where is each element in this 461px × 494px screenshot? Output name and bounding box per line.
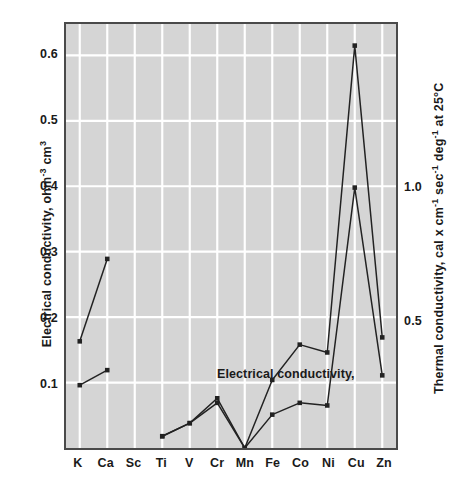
y-left-title-mid: cm bbox=[40, 146, 54, 168]
x-axis-tick-label: Ca bbox=[98, 456, 114, 470]
y-right-title-prefix: Thermal conductivity, cal x cm bbox=[432, 207, 446, 394]
y-left-title-sup2: 3 bbox=[38, 141, 48, 146]
annotation-thermal-conductivity: Thermal conductivity bbox=[347, 447, 398, 450]
x-axis-tick-label: Ni bbox=[322, 456, 335, 470]
y-axis-right-title: Thermal conductivity, cal x cm-1 sec-1 d… bbox=[430, 94, 446, 394]
annotation-electrical-conductivity: Electrical conductivity, bbox=[217, 367, 355, 381]
y-axis-right-tick-label: 0.5 bbox=[404, 314, 422, 328]
x-axis-tick-label: V bbox=[185, 456, 194, 470]
y-axis-right-tick-label: 1.0 bbox=[404, 180, 422, 194]
y-right-title-suffix: at 25°C bbox=[432, 83, 446, 131]
series-lines bbox=[66, 24, 396, 448]
chart-figure: Electrical conductivity, Thermal conduct… bbox=[0, 0, 461, 494]
x-axis-tick-label: K bbox=[73, 456, 82, 470]
y-axis-left-tick-label: 0.1 bbox=[40, 377, 58, 391]
y-right-title-sup2: -1 bbox=[430, 165, 440, 173]
x-axis-tick-label: Cu bbox=[348, 456, 365, 470]
y-right-title-mid2: deg bbox=[432, 139, 446, 166]
x-axis-tick-label: Mn bbox=[236, 456, 254, 470]
x-axis-tick-label: Fe bbox=[265, 456, 280, 470]
x-axis-tick-label: Ti bbox=[156, 456, 167, 470]
y-axis-left-tick-label: 0.5 bbox=[40, 113, 58, 127]
x-axis-tick-label: Sc bbox=[126, 456, 142, 470]
y-right-title-mid1: sec bbox=[432, 173, 446, 198]
y-right-title-sup1: -1 bbox=[430, 199, 440, 207]
y-axis-left-tick-label: 0.3 bbox=[40, 245, 58, 259]
plot-area: Electrical conductivity, Thermal conduct… bbox=[64, 22, 398, 450]
y-axis-left-tick-label: 0.6 bbox=[40, 47, 58, 61]
y-axis-left-tick-label: 0.2 bbox=[40, 311, 58, 325]
x-axis-tick-label: Zn bbox=[376, 456, 392, 470]
y-left-title-sup1: -3 bbox=[38, 168, 48, 176]
x-axis-tick-label: Cr bbox=[210, 456, 224, 470]
y-axis-left-tick-label: 0.4 bbox=[40, 179, 58, 193]
y-right-title-sup3: -1 bbox=[430, 130, 440, 138]
x-axis-tick-label: Co bbox=[292, 456, 309, 470]
